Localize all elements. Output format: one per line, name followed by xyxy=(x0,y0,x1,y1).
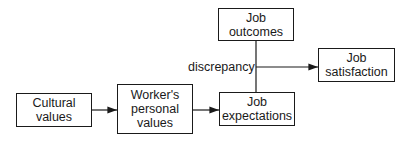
node-label-line: outcomes xyxy=(229,25,283,39)
node-label-line: Job xyxy=(222,95,292,109)
node-job-satisfaction: Jobsatisfaction xyxy=(318,48,395,82)
node-label-line: Job xyxy=(229,11,283,25)
node-label-line: Worker's xyxy=(131,88,180,102)
node-cultural-values: Culturalvalues xyxy=(16,93,92,127)
node-job-expectations: Jobexpectations xyxy=(219,92,295,126)
discrepancy-label: discrepancy xyxy=(188,60,255,74)
node-label-line: expectations xyxy=(222,109,292,123)
node-label-line: values xyxy=(131,116,180,130)
node-label-line: values xyxy=(32,110,75,124)
node-label-line: satisfaction xyxy=(325,65,388,79)
node-workers-personal-values: Worker'spersonalvalues xyxy=(117,84,193,134)
node-job-outcomes: Joboutcomes xyxy=(218,8,294,41)
node-label-line: personal xyxy=(131,102,180,116)
node-label-line: Job xyxy=(325,51,388,65)
node-label-line: Cultural xyxy=(32,96,75,110)
